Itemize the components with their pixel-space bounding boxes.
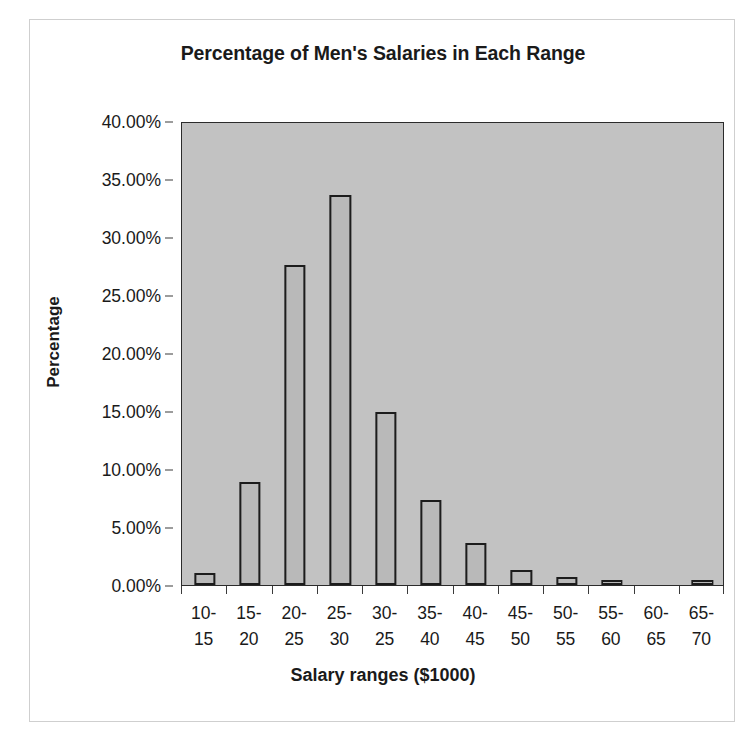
bars-layer (182, 123, 723, 585)
bar-slot (227, 123, 272, 585)
x-axis-tick-mark (588, 586, 589, 594)
bar[interactable] (556, 577, 577, 585)
y-axis-tick-mark (165, 528, 173, 529)
x-axis-tick-label: 55-60 (598, 600, 623, 652)
y-axis-tick-mark (165, 238, 173, 239)
plot-area (181, 122, 724, 586)
x-axis-tick-label: 10-15 (191, 600, 216, 652)
bar-slot (680, 123, 725, 585)
x-axis-tick-mark (634, 586, 635, 594)
bar[interactable] (692, 580, 713, 585)
y-axis-tick-mark (165, 122, 173, 123)
x-axis-tick-label: 25-30 (327, 600, 352, 652)
figure-frame: Percentage of Men's Salaries in Each Ran… (29, 19, 735, 722)
y-axis-tick-mark (165, 180, 173, 181)
bar-slot (318, 123, 363, 585)
x-axis-tick-label: 65-70 (689, 600, 714, 652)
x-axis-tick-label: 15-20 (236, 600, 261, 652)
y-axis-tick-label: 5.00% (111, 518, 161, 539)
y-axis-tick-mark (165, 412, 173, 413)
x-axis-tick-mark (723, 586, 724, 594)
y-axis-tick-group: 0.00%5.00%10.00%15.00%20.00%25.00%30.00%… (30, 122, 173, 586)
bar-slot (589, 123, 634, 585)
y-axis-tick-mark (165, 586, 173, 587)
x-axis-tick-mark (226, 586, 227, 594)
bar[interactable] (330, 195, 351, 585)
x-axis-tick-mark (317, 586, 318, 594)
bar[interactable] (194, 573, 215, 585)
chart-title: Percentage of Men's Salaries in Each Ran… (30, 42, 736, 65)
x-axis-tick-label: 45-50 (508, 600, 533, 652)
y-axis-tick-label: 25.00% (102, 286, 161, 307)
x-axis-tick-mark (181, 586, 182, 594)
x-axis-tick-mark (407, 586, 408, 594)
bar-slot (363, 123, 408, 585)
x-axis-tick-label: 40-45 (462, 600, 487, 652)
x-axis-tick-mark (498, 586, 499, 594)
y-axis-tick-mark (165, 296, 173, 297)
bar-slot (635, 123, 680, 585)
bar[interactable] (420, 500, 441, 585)
bar-slot (454, 123, 499, 585)
bar[interactable] (511, 570, 532, 585)
bar-slot (408, 123, 453, 585)
x-axis-title: Salary ranges ($1000) (30, 665, 736, 686)
x-axis-tick-label: 60-65 (643, 600, 668, 652)
x-axis-tick-mark (543, 586, 544, 594)
x-axis-tick-mark (453, 586, 454, 594)
bar-slot (544, 123, 589, 585)
x-axis-tick-group: 10-1515-2020-2525-3030-2535-4040-4545-50… (181, 600, 724, 662)
y-axis-tick-mark (165, 470, 173, 471)
bar[interactable] (284, 265, 305, 585)
bar[interactable] (375, 412, 396, 585)
x-axis-tick-label: 20-25 (281, 600, 306, 652)
x-axis-tick-label: 50-55 (553, 600, 578, 652)
bar-slot (499, 123, 544, 585)
x-axis-tick-mark (679, 586, 680, 594)
y-axis-tick-label: 10.00% (102, 460, 161, 481)
y-axis-tick-label: 15.00% (102, 402, 161, 423)
y-axis-tick-label: 30.00% (102, 228, 161, 249)
bar[interactable] (601, 580, 622, 585)
y-axis-tick-label: 0.00% (111, 576, 161, 597)
x-axis-tick-label: 30-25 (372, 600, 397, 652)
bar[interactable] (239, 482, 260, 585)
bar-slot (182, 123, 227, 585)
bar-slot (273, 123, 318, 585)
x-axis-tick-mark (272, 586, 273, 594)
y-axis-tick-mark (165, 354, 173, 355)
x-axis-tick-mark (362, 586, 363, 594)
y-axis-tick-label: 40.00% (102, 112, 161, 133)
y-axis-tick-label: 20.00% (102, 344, 161, 365)
x-axis-tick-label: 35-40 (417, 600, 442, 652)
x-axis-tick-marks (181, 586, 724, 595)
bar[interactable] (465, 543, 486, 585)
y-axis-tick-label: 35.00% (102, 170, 161, 191)
